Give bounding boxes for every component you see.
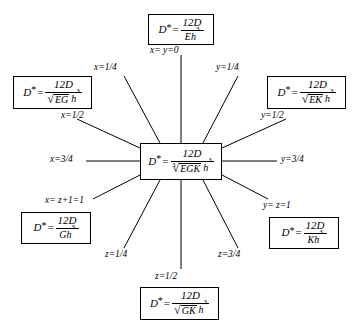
formula-left-lower-denominator: Gh3 [57, 229, 77, 241]
ray-label-down-left: z=1/4 [105, 250, 127, 260]
formula-left-upper-equals: = [37, 87, 43, 98]
formula-left-upper-denominator: √EGh3 [45, 93, 81, 106]
formula-left-upper-numerator: 12D [52, 79, 75, 92]
ray-label-left: x=3/4 [50, 155, 73, 165]
sqrt-icon: √EK [302, 94, 323, 106]
radicand: EK [308, 94, 323, 106]
formula-box-bottom: D* = 12D √GKh3 [140, 287, 219, 320]
ray-up-left [124, 76, 160, 143]
formula-right-upper-numerator: 12D [306, 79, 329, 92]
formula-right-upper-fraction: 12D √EKh3 [300, 79, 336, 106]
formula-box-center: D* = 12D 3√EGKh3 [140, 143, 222, 180]
stiffness-radial-diagram: D* = 12D Eh3 D* = 12D √EGh3 D* = 12D [0, 0, 353, 325]
formula-center-numerator: 12D [181, 148, 204, 161]
formula-right-lower: D* = 12D Kh3 [281, 220, 326, 245]
formula-right-lower-numerator: 12D [304, 220, 327, 233]
formula-top-numerator: 12D [181, 17, 204, 30]
radical-index: 3 [173, 162, 176, 168]
ray-label-up-right: y=1/4 [216, 63, 239, 73]
formula-left-upper-den-base: h [71, 94, 76, 105]
formula-left-lower-fraction: 12D Gh3 [56, 215, 79, 240]
formula-top-den-base: Eh [185, 32, 196, 43]
ray-label-up-left: x=1/4 [94, 63, 117, 73]
formula-right-lower-fraction: 12D Kh3 [304, 220, 327, 245]
radicand: EGK [179, 163, 201, 175]
radical-symbol: √ [302, 93, 309, 105]
formula-right-lower-den-base: Kh [308, 235, 320, 246]
ray-label-right-lower: y= z=1 [263, 201, 291, 211]
formula-right-lower-equals: = [295, 227, 301, 238]
ray-down-left [124, 180, 160, 248]
ray-up-right [203, 76, 238, 143]
ray-label-bottom: z=1/2 [155, 272, 177, 282]
formula-left-upper: D* = 12D √EGh3 [23, 79, 82, 106]
formula-center-equals: = [162, 156, 168, 167]
formula-right-upper: D* = 12D √EKh3 [277, 79, 335, 106]
formula-center-denominator: 3√EGKh3 [171, 162, 214, 175]
formula-top-lhs: D [158, 24, 166, 35]
formula-right-upper-lhs: D [277, 87, 285, 98]
formula-box-top: D* = 12D Eh3 [148, 14, 214, 45]
formula-center-lhs: D [148, 156, 156, 167]
ray-label-down-right: z=3/4 [218, 250, 240, 260]
formula-left-upper-lhs: D [23, 87, 31, 98]
formula-left-lower: D* = 12D Gh3 [33, 215, 78, 240]
formula-top: D* = 12D Eh3 [158, 17, 203, 42]
ray-left-upper [77, 119, 140, 148]
sqrt-icon: √GK [174, 305, 197, 317]
ray-down-right [203, 180, 238, 248]
ray-label-right: y=3/4 [281, 155, 304, 165]
formula-left-lower-den-base: Gh [59, 230, 71, 241]
formula-top-equals: = [172, 24, 178, 35]
formula-left-lower-lhs: D [33, 222, 41, 233]
formula-center-fraction: 12D 3√EGKh3 [171, 148, 214, 175]
formula-center-den-base: h [203, 163, 208, 174]
radical-symbol: √ [174, 304, 181, 316]
formula-bottom-fraction: 12D √GKh3 [172, 290, 209, 317]
formula-box-right-upper: D* = 12D √EKh3 [267, 76, 346, 109]
formula-bottom-numerator: 12D [179, 290, 202, 303]
formula-top-fraction: 12D Eh3 [181, 17, 204, 42]
formula-right-lower-denominator: Kh3 [306, 234, 325, 246]
formula-top-denominator: Eh3 [183, 31, 202, 43]
sqrt-icon: √EG [47, 94, 69, 106]
ray-right-upper [222, 119, 286, 148]
formula-left-upper-fraction: 12D √EGh3 [45, 79, 81, 106]
ray-label-left-lower: x= z+1=1 [45, 196, 84, 206]
ray-left-lower [93, 175, 140, 199]
radicand: EG [54, 94, 69, 106]
formula-left-lower-numerator: 12D [56, 215, 79, 228]
formula-right-upper-den-base: h [325, 94, 330, 105]
formula-box-left-lower: D* = 12D Gh3 [21, 212, 91, 244]
formula-right-lower-lhs: D [281, 227, 289, 238]
ray-right-lower [222, 175, 268, 199]
ray-label-top: x= y=0 [150, 46, 178, 56]
ray-label-left-upper: x=1/2 [61, 111, 84, 121]
radicand: GK [181, 305, 197, 317]
ray-label-right-upper: y=1/2 [261, 111, 284, 121]
formula-bottom-den-base: h [199, 305, 204, 316]
formula-box-right-lower: D* = 12D Kh3 [269, 217, 339, 249]
formula-left-lower-equals: = [47, 222, 53, 233]
cube-root-icon: 3√EGK [173, 163, 202, 175]
radical-symbol: √ [47, 93, 54, 105]
formula-box-left-upper: D* = 12D √EGh3 [13, 76, 92, 109]
formula-right-upper-denominator: √EKh3 [300, 93, 336, 106]
formula-right-upper-equals: = [291, 87, 297, 98]
formula-bottom-denominator: √GKh3 [172, 304, 209, 317]
formula-center: D* = 12D 3√EGKh3 [148, 148, 213, 175]
formula-bottom-equals: = [164, 298, 170, 309]
formula-bottom-lhs: D [150, 298, 158, 309]
formula-bottom: D* = 12D √GKh3 [150, 290, 209, 317]
